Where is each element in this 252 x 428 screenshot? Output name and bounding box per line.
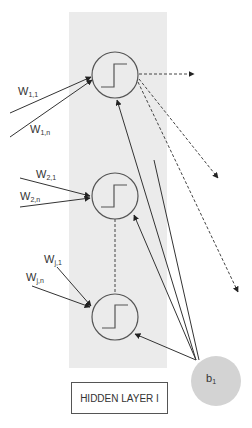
weight-symbol: W <box>36 168 46 180</box>
weight-label-w11: W1,1 <box>18 86 38 98</box>
weight-subscript: 1,1 <box>28 91 38 98</box>
weight-label-w1n: W1,n <box>30 124 50 136</box>
neural-network-diagram <box>0 0 252 428</box>
weight-symbol: W <box>20 190 30 202</box>
weight-label-wj1: Wj,1 <box>44 254 62 266</box>
weight-symbol: W <box>26 271 36 283</box>
weight-label-w21: W2,1 <box>36 169 56 181</box>
weight-subscript: 2,n <box>30 196 40 203</box>
bias-label: b1 <box>206 373 216 385</box>
neuron-j <box>92 294 138 340</box>
weight-label-w2n: W2,n <box>20 191 40 203</box>
weight-subscript: j,n <box>36 277 43 284</box>
weight-subscript: 2,1 <box>46 174 56 181</box>
weight-subscript: 1,n <box>40 129 50 136</box>
neuron-1 <box>92 52 138 98</box>
weight-subscript: j,1 <box>54 259 61 266</box>
weight-symbol: W <box>30 123 40 135</box>
hidden-layer-label: HIDDEN LAYER I <box>71 382 168 414</box>
bias-subscript: 1 <box>212 378 216 385</box>
weight-symbol: W <box>18 85 28 97</box>
weight-label-wjn: Wj,n <box>26 272 44 284</box>
neuron-2 <box>92 173 138 219</box>
weight-symbol: W <box>44 253 54 265</box>
